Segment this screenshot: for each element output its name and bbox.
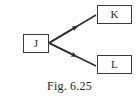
node-l-label: L	[111, 59, 118, 70]
edge-j-to-k-arrowhead	[49, 27, 76, 43]
figure-caption: Fig. 6.25	[0, 79, 139, 94]
node-k: K	[97, 5, 132, 24]
node-k-label: K	[110, 9, 118, 20]
node-j: J	[23, 34, 49, 53]
node-j-label: J	[34, 38, 38, 49]
edge-j-to-l-arrowhead	[49, 43, 75, 56]
figure-container: J K L Fig. 6.25	[0, 0, 139, 98]
node-l: L	[97, 55, 132, 74]
